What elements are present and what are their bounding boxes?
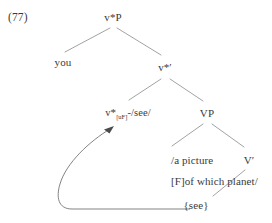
node-vstar-bar: v*′	[158, 62, 172, 73]
branch-vbar-to-head	[129, 79, 161, 100]
movement-arrow-head	[104, 126, 114, 134]
branch-root-to-vbar	[117, 28, 161, 55]
node-specifier-you: you	[55, 57, 72, 68]
node-object-line-2: [F]of which planet/	[171, 176, 258, 187]
movement-arrow-path	[58, 129, 190, 209]
example-number-text: (77)	[8, 11, 28, 23]
syntax-tree-figure: (77) v*P you v*′ v*[uF]-/see/ VP /a pict…	[0, 0, 272, 223]
example-number: (77)	[8, 12, 28, 24]
branch-vp-to-vbar-v	[212, 124, 244, 147]
node-vstarP: v*P	[104, 12, 121, 23]
node-object-line-1: /a picture	[171, 155, 213, 166]
branch-vp-to-object	[172, 124, 203, 146]
node-vstar-head: v*[uF]-/see/	[105, 107, 151, 121]
node-VP: VP	[200, 108, 214, 119]
vstar-head-subscript: [uF]	[116, 113, 127, 120]
vstar-head-exponent: /see/	[131, 107, 151, 118]
branch-vbar-to-vp	[170, 79, 203, 101]
branch-root-to-spec	[65, 28, 110, 52]
node-V-bar: V′	[244, 155, 255, 166]
node-see-copy: {see}	[183, 200, 208, 211]
